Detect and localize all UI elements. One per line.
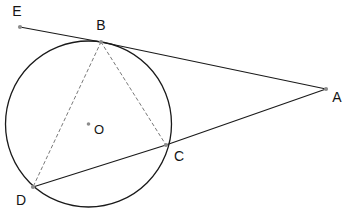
point-marker-b	[99, 40, 103, 44]
point-marker-o-center	[87, 122, 91, 126]
chord-bd-dashed	[33, 42, 101, 187]
segment-cd	[33, 145, 166, 187]
point-marker-e	[18, 25, 22, 29]
geometry-canvas: E B A C D O	[0, 0, 345, 224]
segment-ac	[166, 89, 326, 145]
point-label-o-center: O	[94, 122, 104, 137]
point-label-e: E	[12, 3, 21, 19]
point-label-b: B	[96, 17, 105, 33]
point-label-a: A	[332, 89, 342, 105]
segment-eb	[20, 27, 101, 42]
segment-ba	[101, 42, 326, 89]
point-label-d: D	[16, 192, 26, 208]
point-label-c: C	[174, 148, 184, 164]
geometry-figure: E B A C D O	[0, 0, 345, 224]
point-marker-a	[324, 87, 328, 91]
chord-bc-dashed	[101, 42, 166, 145]
point-marker-c	[164, 143, 168, 147]
point-marker-d	[31, 185, 35, 189]
